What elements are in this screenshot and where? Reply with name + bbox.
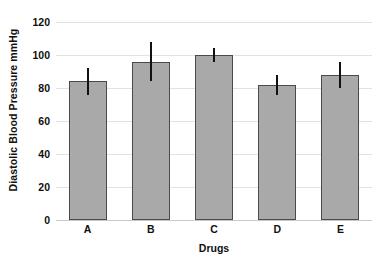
error-bar-b <box>150 42 152 82</box>
x-axis-tick-labels: ABCDE <box>56 223 372 241</box>
y-tick-label: 100 <box>32 49 50 61</box>
bar-e <box>321 75 359 220</box>
y-tick-label: 20 <box>38 181 50 193</box>
error-bar-d <box>276 75 278 95</box>
x-tick-label-b: B <box>147 223 155 235</box>
x-tick-label-e: E <box>337 223 344 235</box>
error-bar-c <box>213 48 215 61</box>
y-axis-title-label: Diastolic Blood Pressure mmHg <box>7 29 19 192</box>
bar-b <box>132 62 170 220</box>
x-tick-label-c: C <box>210 223 218 235</box>
y-axis-title: Diastolic Blood Pressure mmHg <box>0 0 26 220</box>
x-axis-baseline <box>56 220 372 221</box>
bar-d <box>258 85 296 220</box>
x-axis-title: Drugs <box>56 242 372 254</box>
bar-c <box>195 55 233 220</box>
y-tick-label: 0 <box>44 214 50 226</box>
bar-chart-figure: Diastolic Blood Pressure mmHg 0204060801… <box>0 0 383 273</box>
error-bar-e <box>339 62 341 88</box>
bar-group <box>309 22 372 220</box>
y-tick-label: 120 <box>32 16 50 28</box>
bar-group <box>246 22 309 220</box>
bar-group <box>56 22 119 220</box>
y-axis-tick-labels: 020406080100120 <box>26 0 54 273</box>
x-tick-label-a: A <box>84 223 92 235</box>
bar-group <box>119 22 182 220</box>
y-tick-label: 60 <box>38 115 50 127</box>
bar-group <box>182 22 245 220</box>
y-tick-label: 40 <box>38 148 50 160</box>
error-bar-a <box>87 68 89 94</box>
bar-a <box>69 81 107 220</box>
plot-area <box>56 22 372 220</box>
x-tick-label-d: D <box>273 223 281 235</box>
y-tick-label: 80 <box>38 82 50 94</box>
